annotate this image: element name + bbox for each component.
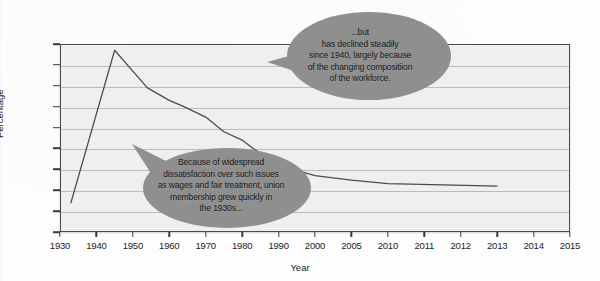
y-tick-mark xyxy=(53,189,60,191)
x-tick-label: 1980 xyxy=(232,240,252,251)
annotation-decline: ...but has declined steadily since 1940,… xyxy=(265,4,455,108)
x-tick-mark xyxy=(460,232,461,237)
y-tick-mark xyxy=(53,210,60,212)
x-tick-label: 2011 xyxy=(414,240,434,251)
y-tick-mark xyxy=(53,64,60,66)
x-tick-label: 2000 xyxy=(305,240,325,251)
x-tick-label: 1930 xyxy=(50,240,70,251)
y-tick-mark xyxy=(53,148,60,150)
x-tick-label: 2012 xyxy=(451,240,471,251)
x-tick-label: 1960 xyxy=(159,240,179,251)
annotation-growth: Because of widespread dissatisfaction ov… xyxy=(128,138,314,234)
x-axis-title: Year xyxy=(0,262,600,273)
x-tick-mark xyxy=(569,232,570,237)
annotation-growth-text: Because of widespread dissatisfaction ov… xyxy=(142,157,301,214)
x-tick-label: 2015 xyxy=(560,240,580,251)
x-tick-mark xyxy=(351,232,352,237)
x-tick-mark xyxy=(424,232,425,237)
x-tick-mark xyxy=(314,232,315,237)
x-tick-mark xyxy=(387,232,388,237)
x-tick-label: 1990 xyxy=(268,240,288,251)
annotation-decline-text: ...but has declined steadily since 1940,… xyxy=(292,27,429,84)
chart-page: Percentage 051015202530354045 1930194019… xyxy=(0,0,600,281)
x-tick-mark xyxy=(533,232,534,237)
x-tick-label: 2013 xyxy=(487,240,507,251)
y-axis-title: Percentage xyxy=(0,89,5,138)
x-tick-label: 2010 xyxy=(378,240,398,251)
x-tick-mark xyxy=(96,232,97,237)
x-tick-mark xyxy=(59,232,60,237)
x-tick-label: 2005 xyxy=(341,240,361,251)
x-tick-label: 1950 xyxy=(123,240,143,251)
x-tick-label: 1940 xyxy=(86,240,106,251)
x-tick-mark xyxy=(496,232,497,237)
x-tick-label: 1970 xyxy=(196,240,216,251)
y-tick-mark xyxy=(53,127,60,129)
y-tick-mark xyxy=(53,43,60,45)
x-tick-label: 2014 xyxy=(523,240,543,251)
y-tick-mark xyxy=(53,169,60,171)
y-tick-mark xyxy=(53,106,60,108)
y-tick-mark xyxy=(53,85,60,87)
